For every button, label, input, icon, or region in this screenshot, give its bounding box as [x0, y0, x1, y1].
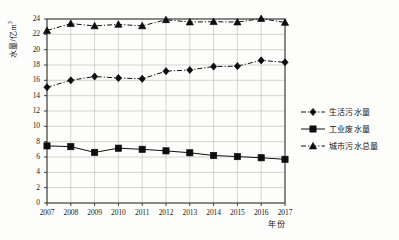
- gridlines: [47, 19, 285, 203]
- marker-square: [163, 148, 169, 154]
- y-tick-label: 12: [24, 107, 40, 115]
- x-tick-label: 2012: [153, 209, 179, 217]
- y-tick-label: 2: [24, 184, 40, 192]
- marker-diamond: [92, 73, 98, 80]
- marker-diamond: [44, 84, 50, 91]
- y-tick-label: 18: [24, 61, 40, 69]
- y-tick-label: 22: [24, 30, 40, 38]
- x-tick-label: 2015: [224, 209, 250, 217]
- legend-label: 城市污水总量: [329, 140, 378, 151]
- y-tick-label: 8: [24, 138, 40, 146]
- marker-square: [282, 156, 288, 162]
- marker-square: [68, 144, 74, 150]
- marker-diamond: [234, 63, 240, 70]
- marker-diamond: [211, 63, 217, 70]
- x-tick-label: 2008: [58, 209, 84, 217]
- marker-diamond: [139, 75, 145, 82]
- legend-marker-diamond-icon: [300, 106, 326, 118]
- legend-item[interactable]: 工业废水量: [300, 121, 396, 136]
- y-axis-title-text: 水量/亿m: [9, 24, 18, 58]
- marker-triangle: [115, 21, 122, 27]
- marker-square: [139, 146, 145, 152]
- x-axis-title: 年份: [268, 218, 285, 229]
- y-tick-label: 10: [24, 122, 40, 130]
- marker-square: [92, 149, 98, 155]
- y-axis-title: 水量/亿m3: [7, 21, 18, 58]
- legend-label: 生活污水量: [329, 106, 370, 117]
- legend-label: 工业废水量: [329, 123, 370, 134]
- marker-diamond: [310, 108, 316, 115]
- x-tick-label: 2014: [201, 209, 227, 217]
- marker-triangle: [258, 15, 265, 21]
- x-tick-label: 2016: [248, 209, 274, 217]
- legend-item[interactable]: 城市污水总量: [300, 138, 396, 153]
- marker-square: [115, 145, 121, 151]
- marker-square: [258, 155, 264, 161]
- legend-item[interactable]: 生活污水量: [300, 104, 396, 119]
- marker-diamond: [68, 77, 74, 84]
- x-tick-label: 2010: [105, 209, 131, 217]
- y-tick-label: 16: [24, 76, 40, 84]
- marker-square: [187, 150, 193, 156]
- tick-marks: [44, 19, 285, 206]
- y-tick-label: 24: [24, 15, 40, 23]
- marker-triangle: [67, 20, 74, 26]
- x-tick-label: 2009: [82, 209, 108, 217]
- marker-square: [211, 152, 217, 158]
- marker-diamond: [187, 66, 193, 73]
- x-tick-label: 2007: [34, 209, 60, 217]
- x-tick-label: 2011: [129, 209, 155, 217]
- chart-legend: 生活污水量工业废水量城市污水总量: [300, 104, 396, 155]
- x-tick-label: 2017: [272, 209, 298, 217]
- marker-diamond: [163, 68, 169, 75]
- marker-square: [234, 154, 240, 160]
- marker-square: [44, 143, 50, 149]
- y-tick-label: 0: [24, 199, 40, 207]
- y-axis-title-exponent: 3: [7, 21, 13, 24]
- chart-figure: 024681012141618202224 200720082009201020…: [0, 0, 399, 240]
- y-tick-label: 14: [24, 92, 40, 100]
- y-tick-label: 4: [24, 168, 40, 176]
- y-tick-label: 6: [24, 153, 40, 161]
- legend-marker-triangle-icon: [300, 140, 326, 152]
- x-tick-label: 2013: [177, 209, 203, 217]
- marker-square: [310, 125, 316, 131]
- marker-diamond: [258, 57, 264, 64]
- legend-marker-square-icon: [300, 123, 326, 135]
- y-tick-label: 20: [24, 46, 40, 54]
